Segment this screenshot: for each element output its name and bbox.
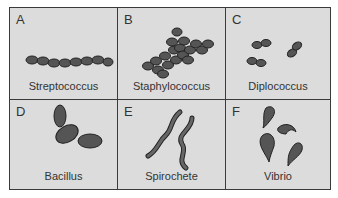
- panel-spirochete: E Spirochete: [118, 100, 225, 189]
- panel-label: Spirochete: [118, 170, 225, 182]
- panel-label: Bacillus: [10, 170, 117, 182]
- panel-label: Vibrio: [226, 170, 330, 182]
- panel-bacillus: D Bacillus: [10, 100, 117, 189]
- panel-vibrio: F Vibrio: [226, 100, 330, 189]
- panel-diplococcus: C Diplococcus: [226, 8, 330, 99]
- panel-label: Streptococcus: [10, 80, 117, 92]
- divider: [10, 99, 330, 101]
- panel-streptococcus: A Streptococcus: [10, 8, 117, 99]
- panel-label: Staphylococcus: [118, 80, 225, 92]
- panel-staphylococcus: B Staphylococcus: [118, 8, 225, 99]
- panel-label: Diplococcus: [226, 80, 330, 92]
- bacteria-shapes-figure: A Streptococcus B: [9, 7, 331, 190]
